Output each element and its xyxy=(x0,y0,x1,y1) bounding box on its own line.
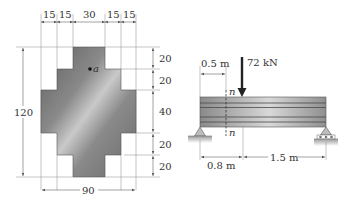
section-label-top: n xyxy=(229,86,235,97)
dim-top-5: 15 xyxy=(123,9,136,20)
point-a-marker xyxy=(88,67,92,71)
remaining-span-label: 1.5 m xyxy=(270,152,299,163)
dim-right-4: 20 xyxy=(159,139,172,150)
cross-section: 15 15 30 15 15 a 120 90 xyxy=(14,9,172,196)
dim-right-2: 20 xyxy=(159,75,172,86)
cross-section-shape xyxy=(41,47,136,177)
load-label: 72 kN xyxy=(247,57,278,68)
dim-right-3: 40 xyxy=(159,106,172,117)
dim-top-4: 15 xyxy=(107,9,120,20)
point-a-label: a xyxy=(93,63,99,74)
dim-top-3: 30 xyxy=(83,9,96,20)
section-label-bottom: n xyxy=(229,127,235,138)
dim-height-label: 120 xyxy=(14,107,33,118)
beam-body xyxy=(200,97,326,127)
dim-width-label: 90 xyxy=(82,185,95,196)
dim-top-1: 15 xyxy=(43,9,56,20)
dim-top-2: 15 xyxy=(59,9,72,20)
dim-right-1: 20 xyxy=(159,53,172,64)
load-arrow-icon xyxy=(238,57,247,97)
beam-diagram: 0.5 m 72 kN n n xyxy=(188,57,338,171)
dim-right-5: 20 xyxy=(159,161,172,172)
load-distance-label: 0.8 m xyxy=(207,160,236,171)
section-distance-label: 0.5 m xyxy=(201,58,230,69)
